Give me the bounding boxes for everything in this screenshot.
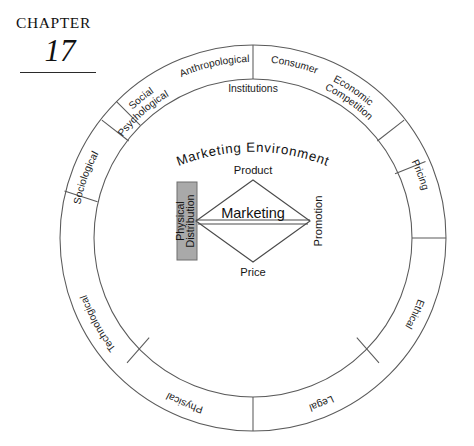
product-label: Product [234, 164, 273, 176]
physical-distribution-label-line2: Distribution [184, 194, 196, 247]
marketing-environment-diagram: Marketing Environment Anthropological Co… [0, 0, 474, 446]
promotion-label: Promotion [312, 196, 324, 247]
marketing-core-label: Marketing [221, 205, 285, 221]
institutions-label: Institutions [228, 83, 278, 94]
page-root: CHAPTER 17 [0, 0, 474, 446]
price-label: Price [240, 266, 266, 278]
